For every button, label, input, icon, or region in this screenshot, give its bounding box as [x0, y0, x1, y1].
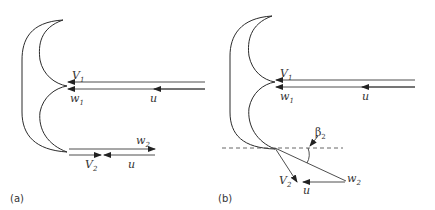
beta-angle-arc-b [307, 148, 309, 163]
v2-label-b: V2 [279, 174, 292, 189]
u-out-label-a: u [128, 158, 135, 171]
caption-b: (b) [218, 193, 232, 204]
w2-label-b: w2 [347, 172, 361, 187]
panel-a: V1 w1 u w2 V2 u (a) [10, 20, 205, 204]
u-in-label-b: u [362, 90, 369, 103]
caption-a: (a) [10, 193, 24, 204]
velocity-triangle-diagram: V1 w1 u w2 V2 u (a) V1 w1 u [0, 0, 435, 210]
bucket-b [230, 16, 275, 149]
v1-label-a: V1 [72, 69, 84, 84]
bucket-a [22, 20, 67, 152]
w2-label-a: w2 [136, 134, 150, 149]
beta2-label-b: β2 [315, 126, 326, 141]
panel-b: V1 w1 u β2 V2 u w2 (b) [218, 16, 415, 204]
u-in-label-a: u [150, 92, 157, 105]
u-out-label-b: u [303, 184, 310, 197]
w1-label-b: w1 [280, 90, 294, 105]
w1-label-a: w1 [70, 92, 84, 107]
v2-label-a: V2 [85, 158, 98, 173]
v1-label-b: V1 [280, 67, 292, 82]
